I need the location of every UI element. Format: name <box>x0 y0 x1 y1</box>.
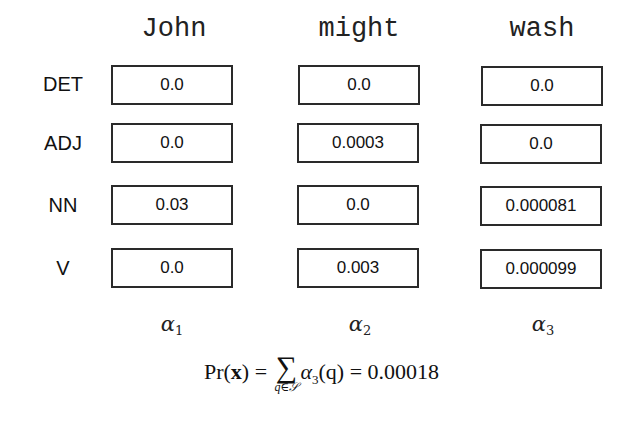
tag-label-nn: NN <box>28 194 98 217</box>
word-header-wash: wash <box>462 14 622 44</box>
formula-term-arg: (q) <box>319 359 345 384</box>
formula-lhs-func: Pr <box>204 359 224 384</box>
formula-equals-1: = <box>255 359 267 384</box>
formula-term-symbol: α <box>300 359 312 384</box>
formula-result: 0.00018 <box>368 359 440 384</box>
trellis-cell-wash-adj: 0.0 <box>480 124 602 164</box>
trellis-cell-wash-v: 0.000099 <box>480 249 602 289</box>
trellis-cell-wash-det: 0.0 <box>481 66 603 106</box>
trellis-cell-might-adj: 0.0003 <box>297 123 419 163</box>
formula-equals-2: = <box>350 359 362 384</box>
trellis-cell-john-nn: 0.03 <box>111 185 233 225</box>
trellis-cell-john-v: 0.0 <box>111 248 233 288</box>
trellis-cell-john-det: 0.0 <box>111 65 233 105</box>
alpha-label-2: α2 <box>330 312 390 338</box>
tag-label-det: DET <box>28 73 98 96</box>
trellis-cell-might-v: 0.003 <box>297 248 419 288</box>
trellis-cell-wash-nn: 0.000081 <box>480 186 602 226</box>
tag-label-v: V <box>28 257 98 280</box>
word-header-might: might <box>279 14 439 44</box>
formula-lhs-arg: x <box>231 359 242 384</box>
sum-subscript: q∈𝒮 <box>275 380 299 395</box>
tag-label-adj: ADJ <box>28 132 98 155</box>
word-header-john: John <box>94 14 254 44</box>
probability-formula: Pr(x) = ∑ q∈𝒮 α3(q) = 0.00018 <box>0 352 643 395</box>
sigma-icon: ∑ <box>275 352 299 382</box>
trellis-cell-might-det: 0.0 <box>298 65 420 105</box>
summation: ∑ q∈𝒮 <box>275 352 299 395</box>
alpha-label-3: α3 <box>513 312 573 338</box>
alpha-label-1: α1 <box>142 312 202 338</box>
trellis-cell-john-adj: 0.0 <box>111 123 233 163</box>
trellis-cell-might-nn: 0.0 <box>297 185 419 225</box>
